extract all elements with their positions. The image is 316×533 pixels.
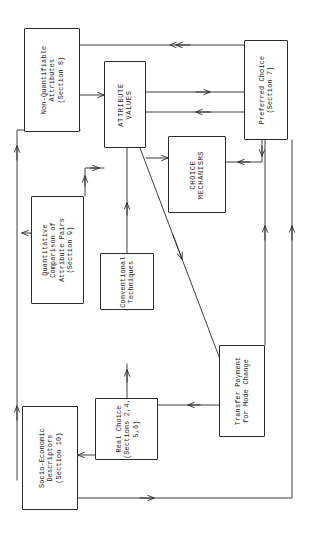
node-label: Non-Quantifiable Attributes (Section 8) (40, 46, 65, 114)
node-label: Real Choice (Sections 2,4, 5,6) (114, 399, 139, 459)
node-real-choice[interactable]: Real Choice (Sections 2,4, 5,6) (95, 398, 158, 460)
node-preferred-choice[interactable]: Preferred Choice (Section 7) (244, 40, 288, 140)
node-label: Conventional Techniques (119, 256, 136, 307)
node-label: CHOICE MECHANISMS (189, 150, 206, 198)
node-label: Socio-Economic Descriptors (Section 10) (38, 428, 63, 488)
edge-preferred-to-choicemech (226, 140, 262, 162)
node-label: Transfer Payment for Mode Change (234, 357, 251, 425)
node-non-quantifiable-attributes[interactable]: Non-Quantifiable Attributes (Section 8) (24, 28, 80, 132)
diagram-canvas: Non-Quantifiable Attributes (Section 8) … (0, 0, 316, 533)
node-choice-mechanisms[interactable]: CHOICE MECHANISMS (168, 136, 226, 213)
node-quantitative-comparison[interactable]: Quantitative Comparison of Attribute Pai… (31, 196, 84, 304)
node-socio-economic-descriptors[interactable]: Socio-Economic Descriptors (Section 10) (22, 406, 78, 510)
node-label: Preferred Choice (Section 7) (258, 56, 275, 124)
edge-quant-to-attrvalues (85, 168, 104, 196)
node-label: ATTRIBUTE VALUES (117, 83, 134, 127)
node-transfer-payment[interactable]: Transfer Payment for Mode Change (219, 345, 265, 437)
node-attribute-values[interactable]: ATTRIBUTE VALUES (104, 61, 146, 148)
node-label: Quantitative Comparison of Attribute Pai… (41, 218, 74, 282)
node-conventional-techniques[interactable]: Conventional Techniques (100, 253, 154, 310)
